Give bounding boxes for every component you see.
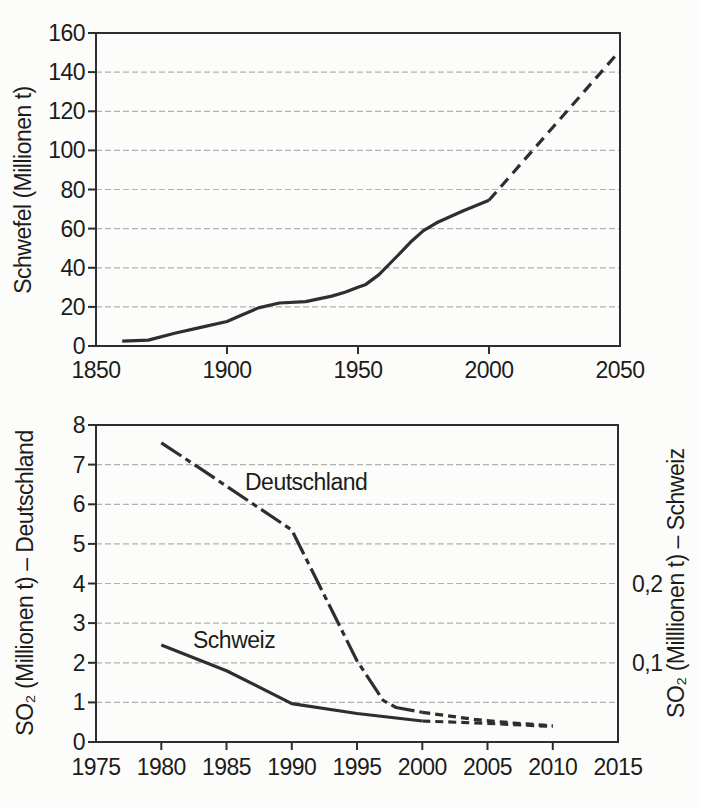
y-tick-label: 0 [73,333,85,359]
x-tick-label: 1975 [71,754,120,780]
x-tick-label: 1900 [202,357,251,383]
y-tick-label: 60 [60,216,85,242]
y-tick-label: 2 [73,650,85,676]
y-tick-label: 7 [73,452,85,478]
right-axis-tick-label: 0,1 [632,650,662,676]
y-tick-label: 0 [73,729,85,755]
y-tick-label: 140 [48,59,85,85]
x-tick-label: 2015 [593,754,642,780]
y-tick-label: 5 [73,531,85,557]
series-line-schwefel-dashed [489,57,615,201]
y-tick-label: 100 [48,137,85,163]
y-tick-label: 3 [73,610,85,636]
x-tick-label: 1950 [333,357,382,383]
x-tick-label: 2010 [528,754,577,780]
x-tick-label: 1985 [202,754,251,780]
y-tick-label: 6 [73,491,85,517]
y-tick-label: 20 [60,294,85,320]
deutschland-series-label: Deutschland [245,469,367,495]
x-tick-label: 2000 [398,754,447,780]
y-tick-label: 80 [60,177,85,203]
bottom-left-axis-title: SO₂ (Millionen t) – Deutschland [12,430,38,735]
series-line-schwefel-solid [122,200,489,341]
y-tick-label: 8 [73,412,85,438]
charts-canvas: Schwefel (Millionen t) 02040608010012014… [0,0,701,807]
so2-chart: SO₂ (Millionen t) – Deutschland SO₂ (Mil… [12,412,689,780]
x-tick-label: 1995 [332,754,381,780]
x-tick-label: 1980 [137,754,186,780]
y-tick-label: 1 [73,689,85,715]
x-tick-label: 2005 [463,754,512,780]
series-line-schweiz-solid [161,645,422,721]
bottom-right-axis-title: SO₂ (Milllionen t) – Schweiz [663,448,689,718]
schweiz-series-label: Schweiz [193,627,275,653]
top-y-axis-title: Schwefel (Millionen t) [10,86,36,294]
right-axis-tick-label: 0,2 [632,571,662,597]
y-tick-label: 4 [73,571,86,597]
x-tick-label: 2000 [464,357,513,383]
x-tick-label: 1850 [71,357,120,383]
x-tick-label: 1990 [267,754,316,780]
x-tick-label: 2050 [595,357,644,383]
y-tick-label: 40 [60,255,85,281]
y-tick-label: 120 [48,98,85,124]
y-tick-label: 160 [48,20,85,46]
schwefel-chart: Schwefel (Millionen t) 02040608010012014… [10,20,645,383]
